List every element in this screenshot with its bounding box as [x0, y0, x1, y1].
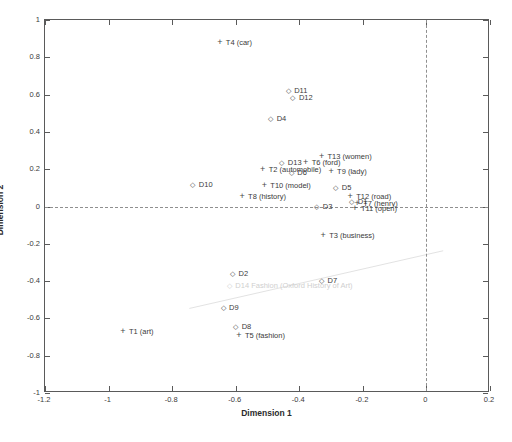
y-axis-tick: [45, 95, 50, 96]
y-axis-tick: [483, 356, 488, 357]
data-point-marker-d11: ◇: [286, 86, 291, 93]
y-tick-label: 1: [36, 15, 40, 24]
data-point-label-t10: T10 (model): [270, 181, 310, 190]
data-point-label-d9: D9: [229, 303, 239, 312]
y-axis-tick: [45, 281, 50, 282]
data-point-marker-t11: +: [352, 204, 357, 213]
y-tick-label: 0.2: [30, 164, 40, 173]
y-axis-tick: [483, 57, 488, 58]
x-axis-tick: [299, 386, 300, 391]
data-point-marker-t1: +: [120, 326, 125, 335]
data-point-label-d14: D14 Fashion (Oxford History of Art): [235, 280, 352, 289]
data-point-label-d3: D3: [323, 201, 333, 210]
y-tick-label: 0.8: [30, 52, 40, 61]
y-axis-tick: [483, 20, 488, 21]
y-axis-tick: [483, 169, 488, 170]
data-point-marker-d8: ◇: [233, 322, 238, 329]
data-point-label-d2: D2: [239, 268, 249, 277]
data-point-marker-t10: +: [262, 181, 267, 190]
y-axis-tick: [483, 393, 488, 394]
data-point-label-t8: T8 (history): [248, 192, 286, 201]
data-point-label-d12: D12: [299, 93, 313, 102]
scatter-plot-figure: Dimension 2 Dimension 1 10.80.60.40.20-0…: [0, 0, 512, 442]
y-tick-label: -0.4: [27, 276, 40, 285]
x-tick-label: -1.2: [38, 395, 51, 404]
data-point-label-t3: T3 (business): [329, 231, 374, 240]
x-tick-label: -1: [104, 395, 111, 404]
y-axis-tick: [45, 132, 50, 133]
data-point-label-t12: T12 (road): [356, 192, 391, 201]
y-axis-tick: [45, 356, 50, 357]
data-point-label-t1: T1 (art): [129, 326, 154, 335]
y-axis-tick: [483, 132, 488, 133]
y-axis-title: Dimension 2: [0, 185, 5, 236]
data-point-label-t9: T9 (lady): [337, 167, 367, 176]
x-axis-tick: [45, 386, 46, 391]
y-axis-tick: [45, 393, 50, 394]
x-axis-tick: [109, 386, 110, 391]
data-point-label-d4: D4: [277, 113, 287, 122]
data-point-marker-d9: ◇: [221, 304, 226, 311]
data-point-marker-t9: +: [328, 167, 333, 176]
zero-line-horizontal: [45, 207, 488, 208]
data-point-marker-d12: ◇: [290, 94, 295, 101]
x-tick-label: -0.4: [292, 395, 305, 404]
data-point-label-t11: T11 (open): [361, 204, 397, 213]
x-axis-tick: [363, 386, 364, 391]
y-axis-tick: [45, 244, 50, 245]
x-axis-tick: [172, 386, 173, 391]
data-point-marker-t2: +: [260, 165, 265, 174]
y-axis-tick: [45, 20, 50, 21]
x-axis-tick: [236, 386, 237, 391]
data-point-marker-t12: +: [348, 192, 353, 201]
y-axis-tick: [45, 169, 50, 170]
x-axis-title: Dimension 1: [44, 408, 489, 418]
y-axis-tick: [483, 318, 488, 319]
y-axis-tick: [483, 281, 488, 282]
data-point-label-t4: T4 (car): [226, 38, 252, 47]
data-point-marker-d2: ◇: [230, 269, 235, 276]
data-point-label-d8: D8: [242, 321, 252, 330]
data-point-marker-t8: +: [239, 192, 244, 201]
x-tick-label: 0: [423, 395, 427, 404]
data-point-marker-t13: +: [319, 152, 324, 161]
data-point-marker-d5: ◇: [333, 183, 338, 190]
y-tick-label: -0.6: [27, 313, 40, 322]
y-tick-label: -0.2: [27, 238, 40, 247]
x-axis-tick: [109, 20, 110, 25]
x-axis-tick: [236, 20, 237, 25]
x-axis-tick: [490, 386, 491, 391]
x-axis-tick: [299, 20, 300, 25]
y-axis-tick: [45, 318, 50, 319]
x-axis-tick: [172, 20, 173, 25]
y-tick-label: 0.6: [30, 89, 40, 98]
x-tick-label: -0.2: [355, 395, 368, 404]
data-point-marker-d10: ◇: [190, 181, 195, 188]
data-point-marker-t4: +: [217, 38, 222, 47]
y-tick-label: 0.4: [30, 126, 40, 135]
y-tick-label: -0.8: [27, 350, 40, 359]
data-point-label-t5: T5 (fashion): [245, 331, 285, 340]
data-point-label-t13: T13 (women): [328, 152, 372, 161]
x-axis-tick: [363, 20, 364, 25]
x-tick-label: 0.2: [484, 395, 494, 404]
y-axis-tick: [483, 244, 488, 245]
data-point-marker-d4: ◇: [268, 114, 273, 121]
data-point-marker-t3: +: [320, 231, 325, 240]
y-axis-tick: [45, 57, 50, 58]
data-point-label-d10: D10: [199, 180, 213, 189]
x-axis-tick: [490, 20, 491, 25]
data-point-marker-t6: +: [303, 157, 308, 166]
data-point-marker-t5: +: [236, 331, 241, 340]
plot-area: ◇D1◇D2◇D3◇D4◇D5◇D6◇D7◇D8◇D9◇D10◇D11◇D12◇…: [44, 19, 489, 392]
data-point-marker-d14: ◇: [227, 281, 232, 288]
data-point-marker-d3: ◇: [314, 202, 319, 209]
x-tick-label: -0.8: [165, 395, 178, 404]
y-axis-tick: [483, 95, 488, 96]
x-tick-label: -0.6: [228, 395, 241, 404]
y-tick-label: 0: [36, 201, 40, 210]
zero-line-vertical: [426, 20, 427, 391]
